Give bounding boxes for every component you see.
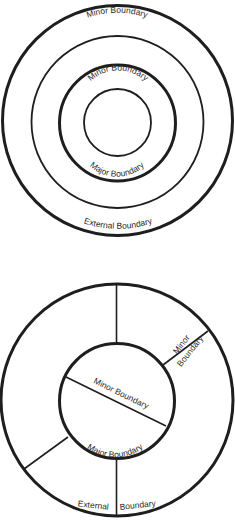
major-boundary-ring (60, 65, 176, 181)
radial-divider-lower-left (24, 437, 68, 469)
external-boundary-ring (3, 6, 233, 236)
label-external-boundary: External Boundary (83, 215, 154, 230)
major-boundary-ring (60, 344, 175, 459)
concentric-diagram: Minor Boundary Minor Boundary Major Boun… (3, 5, 233, 236)
boundary-diagrams: Minor Boundary Minor Boundary Major Boun… (0, 0, 235, 528)
sectored-diagram: Minor Boundary Minor Boundary Major Boun… (1, 284, 233, 517)
minor-boundary-inner-ring (84, 89, 151, 156)
label-minor-boundary-inner: Minor Boundary (86, 62, 152, 83)
